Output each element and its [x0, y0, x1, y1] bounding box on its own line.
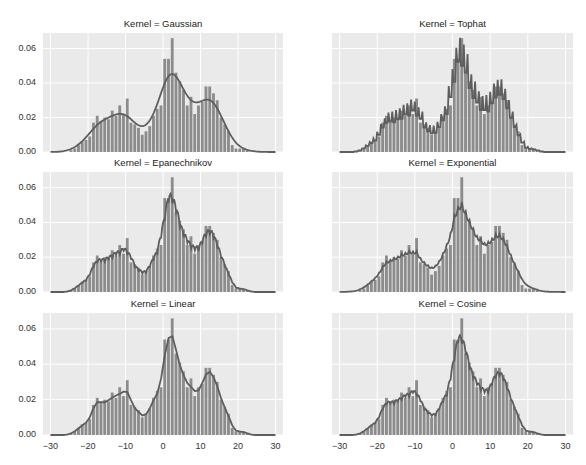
- histogram-bar: [163, 59, 166, 152]
- subplot-title: Kernel = Tophat: [332, 18, 573, 29]
- histogram-bar: [186, 245, 189, 292]
- histogram-bar: [126, 99, 129, 152]
- histogram-bar: [220, 257, 223, 292]
- plot-area: [332, 172, 573, 292]
- histogram-bar: [464, 354, 467, 435]
- x-tick-label: 0: [438, 441, 468, 451]
- histogram-bar: [438, 126, 441, 152]
- histogram-bar: [88, 136, 91, 152]
- histogram-bar: [453, 198, 456, 292]
- histogram-bar: [201, 242, 204, 292]
- histogram-bar: [190, 97, 193, 152]
- histogram-bar: [85, 140, 88, 152]
- histogram-bar: [122, 254, 125, 292]
- histogram-bar: [475, 387, 478, 435]
- histogram-bar: [426, 268, 429, 292]
- histogram-bar: [396, 259, 399, 292]
- histogram-bar: [130, 405, 133, 435]
- y-tick-label: 0.06: [8, 182, 36, 192]
- subplot-title: Kernel = Gaussian: [43, 18, 283, 29]
- histogram-bar: [438, 408, 441, 435]
- histogram-bar: [156, 109, 159, 152]
- histogram-bar: [468, 81, 471, 152]
- histogram-bar: [389, 121, 392, 152]
- histogram-bar: [148, 266, 151, 292]
- histogram-bar: [145, 414, 148, 435]
- plot-area: [332, 33, 573, 152]
- histogram-bar: [404, 116, 407, 152]
- histogram-bar: [182, 229, 185, 292]
- histogram-bar: [175, 212, 178, 292]
- histogram-bar: [475, 245, 478, 292]
- histogram-bar: [445, 109, 448, 152]
- histogram-bar: [160, 245, 163, 292]
- histogram-bar: [73, 149, 76, 152]
- histogram-bar: [411, 114, 414, 152]
- histogram-bar: [475, 105, 478, 152]
- histogram-bar: [107, 259, 110, 292]
- x-tick-label: −20: [362, 441, 392, 451]
- histogram-bar: [100, 261, 103, 292]
- y-tick-label: 0.00: [8, 146, 36, 156]
- plot-area: [43, 313, 283, 435]
- histogram-bar: [197, 387, 200, 435]
- subplot-tophat: Kernel = Tophat: [332, 33, 573, 152]
- histogram-bar: [205, 86, 208, 152]
- histogram-bar: [167, 198, 170, 292]
- histogram-bar: [419, 123, 422, 152]
- histogram-bar: [186, 387, 189, 435]
- histogram-bar: [445, 249, 448, 292]
- histogram-bar: [509, 118, 512, 152]
- histogram-bar: [509, 257, 512, 292]
- histogram-bar: [103, 400, 106, 435]
- histogram-bar: [137, 128, 140, 152]
- y-tick-label: 0.02: [8, 112, 36, 122]
- histogram-bar: [396, 401, 399, 435]
- histogram-bar: [490, 242, 493, 292]
- histogram-bar: [115, 255, 118, 292]
- y-tick-label: 0.06: [8, 323, 36, 333]
- histogram-bar: [393, 257, 396, 292]
- y-tick-label: 0.04: [8, 358, 36, 368]
- histogram-bar: [524, 289, 527, 292]
- histogram-bar: [445, 391, 448, 435]
- histogram-bar: [235, 431, 238, 435]
- histogram-bar: [167, 340, 170, 435]
- histogram-bar: [502, 375, 505, 435]
- histogram-bar: [423, 407, 426, 435]
- x-tick-label: 20: [223, 441, 253, 451]
- histogram-bar: [178, 81, 181, 152]
- histogram-bar: [100, 403, 103, 435]
- histogram-bar: [374, 280, 377, 292]
- histogram-bar: [182, 90, 185, 152]
- histogram-bar: [502, 93, 505, 152]
- histogram-bar: [178, 363, 181, 435]
- histogram-bar: [145, 131, 148, 152]
- histogram-bar: [449, 387, 452, 435]
- histogram-bar: [430, 417, 433, 435]
- subplot-title: Kernel = Exponential: [332, 157, 573, 168]
- histogram-bar: [490, 102, 493, 152]
- histogram-bar: [171, 38, 174, 152]
- subplot-epanechnikov: Kernel = Epanechnikov0.000.020.040.06: [43, 172, 283, 292]
- histogram-bar: [130, 262, 133, 292]
- x-tick-label: 30: [261, 441, 291, 451]
- y-tick-label: 0.04: [8, 216, 36, 226]
- histogram-bar: [208, 86, 211, 152]
- histogram-bar: [374, 140, 377, 152]
- y-tick-label: 0.04: [8, 77, 36, 87]
- x-tick-label: −30: [36, 441, 66, 451]
- histogram-bar: [133, 407, 136, 435]
- histogram-bar: [223, 124, 226, 152]
- histogram-bar: [521, 285, 524, 292]
- histogram-bar: [524, 431, 527, 435]
- histogram-bar: [96, 116, 99, 152]
- histogram-bar: [201, 384, 204, 435]
- histogram-bar: [483, 396, 486, 435]
- histogram-bar: [457, 59, 460, 152]
- x-tick-label: 10: [475, 441, 505, 451]
- histogram-bar: [212, 233, 215, 292]
- histogram-bar: [468, 363, 471, 435]
- histogram-bar: [411, 254, 414, 292]
- histogram-bar: [193, 254, 196, 292]
